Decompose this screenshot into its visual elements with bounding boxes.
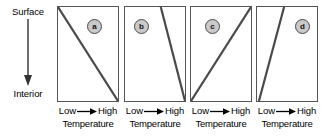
right-arrow-icon	[143, 107, 165, 116]
x-axis-high-label-a: High	[98, 105, 117, 117]
down-arrow-icon	[0, 19, 56, 87]
plot-box-a: a	[57, 6, 119, 102]
x-axis-range-a: Low High	[56, 105, 120, 117]
x-axis-low-label-d: Low	[258, 105, 275, 117]
x-axis-caption-c: Low High Temperature	[189, 105, 253, 130]
depth-axis-bottom-label: Interior	[0, 88, 56, 99]
x-axis-title-b: Temperature	[123, 117, 187, 130]
panel-d: d Low High Temperature	[255, 6, 319, 138]
depth-axis-top-label: Surface	[0, 6, 56, 17]
x-axis-caption-a: Low High Temperature	[56, 105, 120, 130]
x-axis-title-a: Temperature	[56, 117, 120, 130]
x-axis-range-c: Low High	[189, 105, 253, 117]
x-axis-caption-b: Low High Temperature	[123, 105, 187, 130]
panel-badge-b: b	[134, 19, 149, 34]
panel-badge-a: a	[87, 19, 102, 34]
panel-a: a Low High Temperature	[56, 6, 120, 138]
x-axis-high-label-c: High	[231, 105, 250, 117]
x-axis-high-label-d: High	[297, 105, 316, 117]
x-axis-range-b: Low High	[123, 105, 187, 117]
x-axis-low-label-c: Low	[192, 105, 209, 117]
x-axis-range-d: Low High	[255, 105, 319, 117]
plot-box-c: c	[190, 6, 252, 102]
temperature-depth-profile-figure: Surface Interior a Low	[0, 0, 327, 138]
profile-line-c	[191, 7, 251, 101]
panel-badge-d: d	[295, 19, 310, 34]
x-axis-low-label-a: Low	[59, 105, 76, 117]
profile-line-b	[125, 7, 185, 101]
plot-box-d: d	[256, 6, 318, 102]
panel-c: c Low High Temperature	[189, 6, 253, 138]
x-axis-low-label-b: Low	[126, 105, 143, 117]
x-axis-high-label-b: High	[165, 105, 184, 117]
right-arrow-icon	[209, 107, 231, 116]
x-axis-caption-d: Low High Temperature	[255, 105, 319, 130]
panel-b: b Low High Temperature	[123, 6, 187, 138]
depth-axis: Surface Interior	[0, 0, 56, 104]
x-axis-title-c: Temperature	[189, 117, 253, 130]
right-arrow-icon	[275, 107, 297, 116]
right-arrow-icon	[76, 107, 98, 116]
x-axis-title-d: Temperature	[255, 117, 319, 130]
panel-row: a Low High Temperature	[56, 6, 327, 138]
panel-badge-c: c	[205, 19, 220, 34]
plot-box-b: b	[124, 6, 186, 102]
